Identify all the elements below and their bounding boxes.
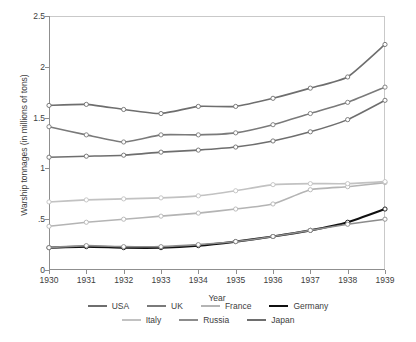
series-usa xyxy=(47,42,387,115)
legend-item-russia[interactable]: Russia xyxy=(179,315,229,325)
x-tick-mark xyxy=(86,270,87,274)
legend-label: Japan xyxy=(271,315,294,325)
y-tick-label: 2.5 xyxy=(33,11,45,21)
data-point-marker xyxy=(271,96,275,100)
data-point-marker xyxy=(84,133,88,137)
data-point-marker xyxy=(196,133,200,137)
data-point-marker xyxy=(84,220,88,224)
data-point-marker xyxy=(271,183,275,187)
data-point-marker xyxy=(308,86,312,90)
data-point-marker xyxy=(271,123,275,127)
data-point-marker xyxy=(383,207,387,211)
data-point-marker xyxy=(383,180,387,184)
data-point-marker xyxy=(346,222,350,226)
data-point-marker xyxy=(47,155,51,159)
y-tick-mark xyxy=(45,67,49,68)
data-point-marker xyxy=(234,189,238,193)
chart-legend: USAUKFranceGermanyItalyRussiaJapan xyxy=(0,301,416,325)
data-point-marker xyxy=(308,182,312,186)
data-point-marker xyxy=(196,104,200,108)
legend-swatch-uk xyxy=(147,305,166,307)
legend-swatch-japan xyxy=(247,319,266,321)
data-point-marker xyxy=(383,85,387,89)
series-line xyxy=(49,219,385,247)
data-point-marker xyxy=(159,214,163,218)
series-france xyxy=(47,181,387,229)
data-point-marker xyxy=(122,153,126,157)
data-point-marker xyxy=(122,107,126,111)
legend-swatch-russia xyxy=(179,319,198,321)
data-point-marker xyxy=(234,145,238,149)
data-point-marker xyxy=(271,202,275,206)
legend-label: Germany xyxy=(293,301,328,311)
x-tick-mark xyxy=(310,270,311,274)
legend-label: Russia xyxy=(203,315,229,325)
data-point-marker xyxy=(159,150,163,154)
data-point-marker xyxy=(122,245,126,249)
data-point-marker xyxy=(383,98,387,102)
data-point-marker xyxy=(159,245,163,249)
series-uk xyxy=(47,85,387,144)
series-layer xyxy=(49,16,385,270)
data-point-marker xyxy=(234,207,238,211)
y-tick-mark xyxy=(45,219,49,220)
legend-item-usa[interactable]: USA xyxy=(88,301,129,311)
legend-item-italy[interactable]: Italy xyxy=(122,315,162,325)
series-line xyxy=(49,87,385,142)
chart-root: Warship tonnages (in millions of tons) 0… xyxy=(0,0,416,342)
legend-item-france[interactable]: France xyxy=(201,301,251,311)
legend-label: USA xyxy=(112,301,129,311)
data-point-marker xyxy=(234,104,238,108)
y-tick-mark xyxy=(45,168,49,169)
y-axis-title: Warship tonnages (in millions of tons) xyxy=(19,35,29,255)
legend-item-uk[interactable]: UK xyxy=(147,301,183,311)
x-tick-mark xyxy=(49,270,50,274)
data-point-marker xyxy=(308,130,312,134)
legend-label: Italy xyxy=(146,315,162,325)
data-point-marker xyxy=(346,100,350,104)
x-tick-label: 1931 xyxy=(77,275,96,285)
data-point-marker xyxy=(308,111,312,115)
data-point-marker xyxy=(84,198,88,202)
data-point-marker xyxy=(234,239,238,243)
plot-area: 0.511.522.5 1930193119321933193419351936… xyxy=(49,16,385,270)
x-tick-mark xyxy=(124,270,125,274)
x-tick-label: 1938 xyxy=(338,275,357,285)
legend-row: ItalyRussiaJapan xyxy=(113,315,304,325)
x-tick-label: 1939 xyxy=(376,275,395,285)
data-point-marker xyxy=(47,200,51,204)
x-tick-label: 1932 xyxy=(114,275,133,285)
series-line xyxy=(49,209,385,248)
legend-swatch-usa xyxy=(88,305,107,307)
data-point-marker xyxy=(159,111,163,115)
legend-swatch-germany xyxy=(269,305,288,307)
x-tick-label: 1936 xyxy=(264,275,283,285)
x-tick-mark xyxy=(236,270,237,274)
data-point-marker xyxy=(346,182,350,186)
y-tick-label: 1.5 xyxy=(33,113,45,123)
data-point-marker xyxy=(122,217,126,221)
series-line xyxy=(49,44,385,113)
legend-label: UK xyxy=(171,301,183,311)
data-point-marker xyxy=(271,234,275,238)
x-tick-label: 1933 xyxy=(152,275,171,285)
data-point-marker xyxy=(234,131,238,135)
legend-label: France xyxy=(225,301,251,311)
data-point-marker xyxy=(308,228,312,232)
data-point-marker xyxy=(84,102,88,106)
legend-item-japan[interactable]: Japan xyxy=(247,315,294,325)
legend-item-germany[interactable]: Germany xyxy=(269,301,328,311)
data-point-marker xyxy=(47,103,51,107)
data-point-marker xyxy=(47,125,51,129)
data-point-marker xyxy=(84,154,88,158)
data-point-marker xyxy=(196,243,200,247)
legend-swatch-italy xyxy=(122,319,141,321)
data-point-marker xyxy=(271,139,275,143)
data-point-marker xyxy=(122,197,126,201)
data-point-marker xyxy=(47,224,51,228)
legend-row: USAUKFranceGermany xyxy=(79,301,338,311)
data-point-marker xyxy=(196,211,200,215)
data-point-marker xyxy=(84,244,88,248)
data-point-marker xyxy=(196,148,200,152)
data-point-marker xyxy=(196,194,200,198)
